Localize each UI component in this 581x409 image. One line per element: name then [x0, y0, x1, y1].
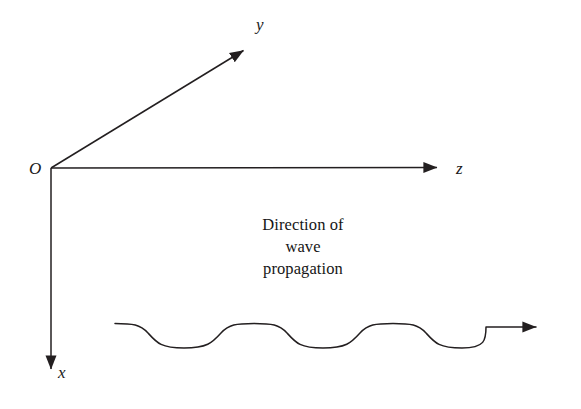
wave-path: [115, 324, 536, 349]
axis-z-label: z: [456, 160, 463, 177]
axis-y-line: [51, 51, 244, 169]
caption-line-3: propagation: [213, 258, 393, 280]
axis-x-label: x: [58, 364, 66, 381]
diagram-vector-layer: [0, 0, 581, 409]
origin-label: O: [29, 160, 41, 177]
caption-line-2: wave: [213, 236, 393, 258]
propagation-caption: Direction of wave propagation: [213, 214, 393, 279]
figure-canvas: O y z x Direction of wave propagation: [0, 0, 581, 409]
axis-z: [51, 168, 437, 169]
axis-y: [51, 51, 244, 169]
wave-propagation-curve: [115, 324, 536, 349]
axis-z-line: [51, 168, 437, 169]
axis-y-label: y: [256, 16, 264, 33]
caption-line-1: Direction of: [213, 214, 393, 236]
